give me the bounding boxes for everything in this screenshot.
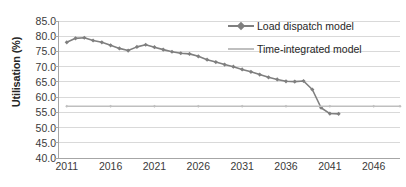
- x-axis-tick-label: 2031: [230, 160, 253, 172]
- x-axis-tick-label: 2046: [362, 160, 385, 172]
- series-marker: [196, 54, 200, 58]
- series-marker: [398, 105, 401, 108]
- series-marker: [231, 65, 235, 69]
- series-marker: [249, 70, 253, 74]
- series-marker: [275, 77, 279, 81]
- series-marker: [328, 105, 331, 108]
- legend-item-label: Load dispatch model: [257, 20, 354, 32]
- legend-item-label: Time-integrated model: [257, 43, 362, 55]
- series-marker: [214, 60, 218, 64]
- series-marker: [284, 105, 287, 108]
- series-marker: [65, 105, 68, 108]
- legend-diamond-marker-icon: [237, 22, 245, 30]
- x-axis-tick-label: 2026: [187, 160, 210, 172]
- series-marker: [170, 50, 174, 54]
- series-marker: [100, 40, 104, 44]
- series-marker: [109, 43, 113, 47]
- legend-swatch: [228, 21, 254, 31]
- chart-container: Utilisation (%) 85.080.075.070.065.060.0…: [0, 0, 406, 187]
- series-marker: [197, 105, 200, 108]
- legend-item: Time-integrated model: [228, 43, 362, 55]
- legend-swatch: [228, 44, 254, 54]
- series-marker: [205, 58, 209, 62]
- series-marker: [258, 72, 262, 76]
- series-marker: [153, 105, 156, 108]
- legend-line-icon: [228, 48, 254, 50]
- series-marker: [117, 46, 121, 50]
- series-marker: [109, 105, 112, 108]
- series-marker: [284, 79, 288, 83]
- x-axis-tick-label: 2011: [55, 160, 78, 172]
- series-marker: [91, 38, 95, 42]
- series-marker: [144, 43, 148, 47]
- legend-item: Load dispatch model: [228, 20, 354, 32]
- series-marker: [372, 105, 375, 108]
- x-axis-tick-labels: 20112016202120262031203620412046: [0, 160, 406, 180]
- series-marker: [241, 105, 244, 108]
- series-marker: [240, 67, 244, 71]
- series-marker: [223, 62, 227, 66]
- series-marker: [152, 45, 156, 49]
- series-marker: [187, 52, 191, 56]
- x-axis-tick-label: 2041: [318, 160, 341, 172]
- x-axis-tick-label: 2036: [274, 160, 297, 172]
- series-marker: [293, 79, 297, 83]
- x-axis-tick-label: 2016: [99, 160, 122, 172]
- series-marker: [266, 75, 270, 79]
- x-axis-tick-label: 2021: [143, 160, 166, 172]
